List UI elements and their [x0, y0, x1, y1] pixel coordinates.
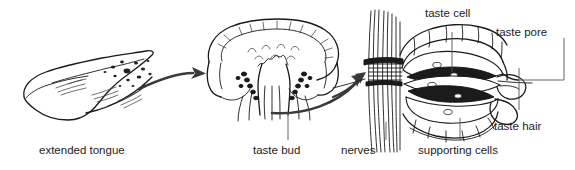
label-taste-hair: taste hair — [494, 120, 541, 132]
taste-pore-surface-line — [498, 81, 532, 83]
papilla-left-inner-flank — [220, 63, 222, 89]
leader-taste-pore — [517, 38, 564, 80]
tongue-tip-fold — [26, 76, 88, 98]
label-supporting-cells: supporting cells — [418, 144, 498, 156]
papilla-base-left-lobe — [221, 89, 250, 100]
papilla-right-inner-flank — [324, 62, 326, 88]
taste-bud-cluster-right — [290, 72, 312, 100]
arrow-tongue-to-papilla — [139, 67, 206, 89]
diagram-canvas: extended tongue taste bud nerves support… — [0, 0, 575, 170]
lower-supporting-cell-nucleus — [444, 109, 452, 114]
upper-supporting-cell-nucleus — [433, 62, 441, 67]
taste-bud-cluster-left — [236, 72, 258, 100]
tongue-papillae-spots — [104, 60, 152, 87]
label-nerves: nerves — [341, 144, 376, 156]
tongue-surface-texture — [56, 79, 142, 108]
tongue-underside-contour — [86, 77, 152, 113]
papilla-outer-dome — [208, 19, 338, 80]
papilla-left-flank — [207, 62, 221, 97]
right-epithelium-division — [500, 86, 519, 89]
taste-anatomy-diagram: extended tongue taste bud nerves support… — [0, 0, 575, 170]
label-taste-pore: taste pore — [496, 26, 547, 38]
label-taste-bud: taste bud — [253, 144, 300, 156]
nerve-dark-band-lower — [366, 81, 402, 87]
papilla-crown-arches — [248, 44, 299, 59]
label-taste-cell: taste cell — [425, 7, 470, 19]
taste-cell-lower-nucleus — [454, 94, 461, 98]
papilla-trench-left-wall — [258, 64, 262, 115]
nerve-banded-segment — [369, 64, 402, 80]
upper-epithelium-outer-arc — [400, 25, 507, 55]
tongue-illustration — [24, 51, 153, 120]
papilla-taste-bud-clusters — [236, 72, 312, 100]
label-extended-tongue: extended tongue — [39, 144, 125, 156]
